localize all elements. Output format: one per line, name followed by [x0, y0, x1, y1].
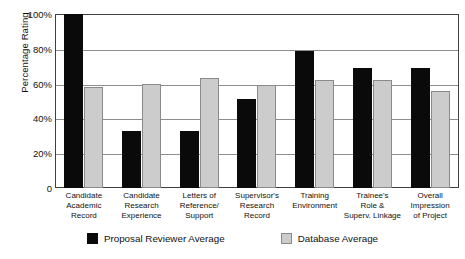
bar-group	[113, 14, 171, 188]
bar	[84, 87, 103, 188]
y-axis-tick-label: 100%	[6, 9, 52, 20]
legend-item: Proposal Reviewer Average	[87, 233, 225, 244]
legend-label: Database Average	[298, 233, 378, 244]
y-axis-tick-label: 60%	[6, 78, 52, 89]
bar	[315, 80, 334, 188]
bar	[431, 91, 450, 188]
legend-swatch	[281, 233, 292, 244]
bar-group	[55, 14, 113, 188]
bar	[295, 51, 314, 188]
bar	[237, 99, 256, 188]
bar	[64, 14, 83, 188]
y-axis-tick-label: 0	[6, 183, 52, 194]
y-axis-tick-label: 80%	[6, 43, 52, 54]
bar	[373, 80, 392, 188]
bars-layer	[55, 14, 459, 188]
bar-group	[228, 14, 286, 188]
bar	[257, 85, 276, 188]
bar-group	[401, 14, 459, 188]
legend-item: Database Average	[281, 233, 378, 244]
bar-chart: Percentage Rating 100%80%60%40%20%0 Cand…	[0, 0, 465, 259]
legend-label: Proposal Reviewer Average	[104, 233, 225, 244]
legend-swatch	[87, 233, 98, 244]
x-axis-category-label: OverallImpressionof Project	[395, 191, 465, 222]
bar	[122, 131, 141, 188]
y-axis-tick-label: 40%	[6, 113, 52, 124]
bar	[353, 68, 372, 188]
bar	[411, 68, 430, 188]
bar-group	[344, 14, 402, 188]
bar	[200, 78, 219, 188]
bar-group	[170, 14, 228, 188]
y-axis-tick-label: 20%	[6, 148, 52, 159]
x-axis-category-labels: CandidateAcademicRecordCandidateResearch…	[55, 191, 459, 229]
bar-group	[286, 14, 344, 188]
bar	[180, 131, 199, 188]
bar	[142, 84, 161, 188]
chart-legend: Proposal Reviewer AverageDatabase Averag…	[0, 233, 465, 244]
